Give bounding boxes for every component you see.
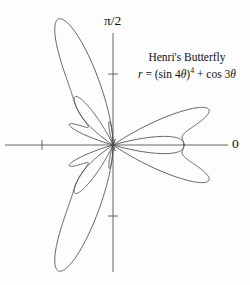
- vertical-axis-label: π/2: [104, 14, 121, 28]
- curve-equation: r = (sin 4θ)4 + cos 3θ: [131, 66, 243, 82]
- polar-plot-figure: π/2 0 Henri's Butterfly r = (sin 4θ)4 + …: [0, 0, 250, 285]
- horizontal-axis-label: 0: [232, 137, 239, 151]
- annotation-block: Henri's Butterfly r = (sin 4θ)4 + cos 3θ: [131, 50, 243, 82]
- curve-title: Henri's Butterfly: [131, 50, 243, 64]
- polar-curve-canvas: [0, 0, 250, 285]
- equation-middle: + cos 3: [194, 68, 230, 80]
- equation-open: = (sin 4: [143, 68, 181, 80]
- equation-theta-second: θ: [230, 68, 236, 80]
